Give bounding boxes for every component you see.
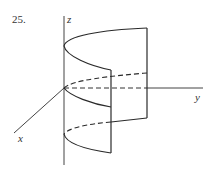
- z-axis-label: z: [66, 13, 72, 25]
- x-axis-label: x: [17, 132, 23, 144]
- bottom-edge: [111, 118, 147, 122]
- bottom-parabola-front: [64, 134, 111, 153]
- diagram-canvas: 25. z y x: [0, 0, 222, 176]
- top-parabola: [64, 28, 147, 70]
- middle-parabola-front: [64, 88, 111, 107]
- y-axis-label: y: [194, 91, 200, 103]
- middle-parabola-hidden: [64, 73, 147, 88]
- problem-number: 25.: [12, 13, 26, 25]
- x-axis: [14, 88, 64, 133]
- bottom-parabola-hidden: [64, 122, 111, 134]
